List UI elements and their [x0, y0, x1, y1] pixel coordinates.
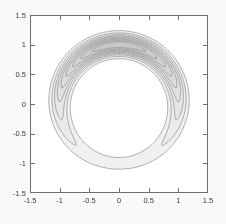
x-axis-labels: -1.5-1-0.500.511.5 [0, 196, 226, 206]
y-tick-label: -1 [0, 159, 26, 168]
axis-frame [30, 15, 208, 193]
axis-box [31, 16, 208, 193]
x-tick-label: 1 [166, 196, 190, 205]
y-tick-label: 0 [0, 100, 26, 109]
y-axis-labels: -1.5-1-0.500.511.5 [0, 0, 26, 224]
plot-area [30, 15, 208, 193]
x-tick-label: 1.5 [196, 196, 220, 205]
y-tick-label: -0.5 [0, 129, 26, 138]
x-tick-label: 0.5 [137, 196, 161, 205]
x-tick-label: -0.5 [77, 196, 101, 205]
y-tick-label: -1.5 [0, 189, 26, 198]
matlab-figure: -1.5-1-0.500.511.5 -1.5-1-0.500.511.5 [0, 0, 226, 224]
x-tick-label: -1 [48, 196, 72, 205]
y-tick-label: 1 [0, 40, 26, 49]
x-tick-label: 0 [107, 196, 131, 205]
y-tick-label: 1.5 [0, 11, 26, 20]
y-tick-label: 0.5 [0, 70, 26, 79]
